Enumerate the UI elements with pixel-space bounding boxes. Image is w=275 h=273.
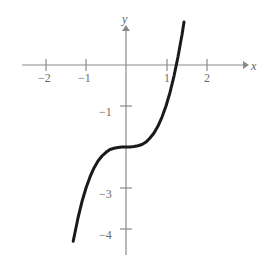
x-axis-label: x <box>251 60 256 72</box>
graph-figure: −2 −1 1 2 −1 −3 −4 x y <box>0 0 275 273</box>
y-tick-label-minus-3: −3 <box>99 188 112 200</box>
y-tick-label-minus-1: −1 <box>99 106 112 118</box>
x-tick-label-plus-2: 2 <box>204 72 210 84</box>
x-tick-label-minus-1: −1 <box>78 72 91 84</box>
plot-canvas <box>0 0 275 273</box>
x-tick-label-minus-2: −2 <box>38 72 51 84</box>
x-axis-arrowhead <box>243 61 249 69</box>
x-tick-label-plus-1: 1 <box>164 72 170 84</box>
cubic-curve <box>73 22 184 241</box>
y-axis-label: y <box>122 13 127 25</box>
y-tick-label-minus-4: −4 <box>99 229 112 241</box>
